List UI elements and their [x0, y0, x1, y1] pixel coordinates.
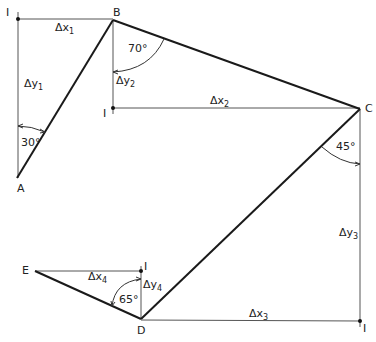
leg-ab: [17, 20, 113, 178]
intersection-dot: [16, 17, 20, 21]
diagram-canvas: A B C D E I I I I Δx1 Δy1 Δy2 Δx2 Δy3 Δx…: [0, 0, 376, 342]
dx3-line: [141, 320, 360, 321]
intersection-label: I: [363, 322, 366, 335]
point-label-d: D: [137, 324, 145, 337]
angle-labels: 30° 70° 45° 65°: [21, 42, 356, 306]
delta-y3-label: Δy3: [339, 226, 358, 241]
intersection-dot: [111, 106, 115, 110]
point-label-b: B: [113, 6, 121, 19]
delta-y1-label: Δy1: [24, 77, 43, 92]
leg-cd: [141, 109, 360, 319]
delta-labels: Δx1 Δy1 Δy2 Δx2 Δy3 Δx3 Δx4 Δy4: [24, 21, 358, 322]
angle-label-c: 45°: [336, 140, 356, 153]
delta-y2-label: Δy2: [116, 74, 135, 89]
intersection-dot: [358, 319, 362, 323]
angle-arcs: [18, 39, 360, 306]
delta-x1-label: Δx1: [55, 21, 74, 36]
delta-y4-label: Δy4: [143, 278, 162, 293]
intersection-label: I: [6, 6, 9, 19]
angle-label-b: 70°: [128, 42, 148, 55]
point-label-e: E: [22, 264, 29, 277]
delta-x2-label: Δx2: [210, 94, 229, 109]
leg-bc: [113, 20, 360, 109]
intersection-label: I: [144, 260, 147, 273]
delta-x4-label: Δx4: [88, 270, 107, 285]
traverse-diagram: A B C D E I I I I Δx1 Δy1 Δy2 Δx2 Δy3 Δx…: [0, 0, 376, 342]
traverse-legs: [17, 20, 360, 319]
point-label-a: A: [17, 182, 25, 195]
intersection-label: I: [103, 107, 106, 120]
intersection-labels: I I I I: [6, 6, 366, 335]
construction-lines: [18, 12, 360, 327]
delta-x3-label: Δx3: [249, 307, 268, 322]
intersection-dot: [139, 269, 143, 273]
point-label-c: C: [365, 102, 373, 115]
angle-arrow-a: [40, 129, 45, 133]
intersection-dots: [16, 17, 362, 323]
angle-label-a: 30°: [21, 136, 41, 149]
angle-label-d: 65°: [119, 293, 139, 306]
